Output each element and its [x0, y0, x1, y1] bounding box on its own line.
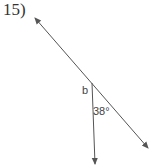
downward-ray	[92, 83, 95, 164]
angle-diagram: b 38°	[0, 0, 167, 166]
transversal-line	[35, 18, 148, 148]
angle-label-38: 38°	[93, 105, 110, 117]
angle-label-b: b	[82, 84, 88, 96]
